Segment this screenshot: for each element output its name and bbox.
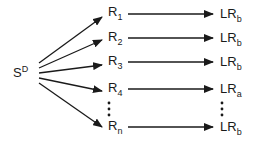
source-superscript: D	[22, 64, 29, 74]
lr-base: LR	[220, 81, 237, 96]
receptor-label-4: R4	[108, 81, 122, 96]
fan-arrow-r1	[39, 17, 102, 63]
lr-base: LR	[220, 54, 237, 69]
receptor-base: R	[108, 4, 117, 19]
source-base: S	[13, 65, 22, 80]
lr-base: LR	[220, 6, 237, 21]
receptor-base: R	[108, 118, 117, 133]
lr-label-3: LRb	[220, 55, 242, 70]
lr-label-2: LRb	[220, 31, 242, 46]
receptor-base: R	[108, 53, 117, 68]
receptor-sub: 4	[117, 88, 122, 98]
receptor-sub: 1	[117, 12, 122, 22]
receptor-label-3: R3	[108, 54, 122, 69]
receptor-sub: n	[117, 126, 122, 136]
receptor-sub: 3	[117, 61, 122, 71]
source-label: SD	[13, 66, 28, 81]
receptor-base: R	[108, 29, 117, 44]
lr-label-1: LRb	[220, 7, 242, 22]
fan-arrow-r2	[39, 40, 102, 68]
receptor-base: R	[108, 80, 117, 95]
receptor-label-2: R2	[108, 30, 122, 45]
lr-base: LR	[220, 119, 237, 134]
lr-sub: b	[237, 38, 242, 48]
receptor-sub: 2	[117, 37, 122, 47]
lr-label-4: LRa	[220, 82, 242, 97]
diagram: SD R1 R2 R3 R4 Rn LRb LRb LRb LRa LRb	[0, 0, 261, 147]
lr-sub: b	[237, 127, 242, 137]
lr-label-n: LRb	[220, 120, 242, 135]
ellipsis-dots-right	[221, 102, 224, 117]
lr-sub: a	[237, 89, 242, 99]
receptor-label-n: Rn	[108, 119, 122, 134]
lr-sub: b	[237, 14, 242, 24]
fan-arrow-r3	[39, 65, 102, 73]
lr-base: LR	[220, 30, 237, 45]
lr-sub: b	[237, 62, 242, 72]
receptor-label-1: R1	[108, 5, 122, 20]
ellipsis-dots-left	[108, 102, 111, 117]
